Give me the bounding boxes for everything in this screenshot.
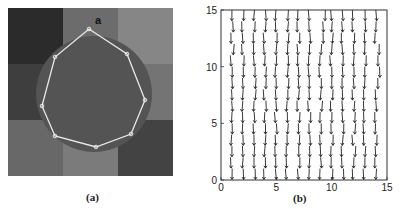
panel-b-plot: 051015051015 bbox=[206, 5, 393, 193]
vector-arrow bbox=[242, 44, 243, 55]
x-tick-label: 10 bbox=[326, 182, 338, 193]
vector-arrow bbox=[264, 112, 265, 123]
label-a: a bbox=[95, 14, 102, 26]
vector-arrow bbox=[232, 89, 233, 100]
plot-frame bbox=[221, 10, 387, 180]
vector-arrow bbox=[233, 21, 234, 32]
vector-arrow bbox=[375, 146, 376, 157]
caption-b: (b) bbox=[293, 192, 306, 204]
x-tick-label: 0 bbox=[218, 182, 224, 193]
vector-arrow bbox=[243, 78, 244, 89]
vector-arrow bbox=[253, 123, 254, 134]
vector-arrow bbox=[254, 101, 255, 112]
y-tick-label: 15 bbox=[206, 5, 218, 16]
y-tick-label: 5 bbox=[211, 118, 217, 129]
vector-arrow bbox=[352, 21, 353, 32]
vector-arrow bbox=[309, 21, 310, 32]
figure: a 051015051015 bbox=[0, 0, 402, 209]
vector-arrow bbox=[275, 67, 276, 78]
vector-arrow bbox=[342, 67, 343, 78]
vector-arrow bbox=[319, 67, 320, 78]
panel-a-image: a bbox=[8, 8, 173, 176]
vector-arrow bbox=[230, 157, 231, 168]
x-tick-label: 5 bbox=[274, 182, 280, 193]
caption-a: (a) bbox=[86, 191, 99, 203]
y-tick-label: 10 bbox=[206, 62, 218, 73]
vector-arrow bbox=[355, 112, 356, 123]
vector-arrow bbox=[231, 112, 232, 123]
vector-arrow bbox=[299, 135, 300, 146]
vector-arrow bbox=[320, 135, 321, 146]
vector-arrow bbox=[242, 123, 243, 134]
y-tick-label: 0 bbox=[211, 175, 217, 186]
x-tick-label: 15 bbox=[381, 182, 393, 193]
vector-arrow bbox=[375, 33, 376, 44]
vector-arrow bbox=[342, 157, 343, 168]
vector-arrow bbox=[242, 146, 243, 157]
